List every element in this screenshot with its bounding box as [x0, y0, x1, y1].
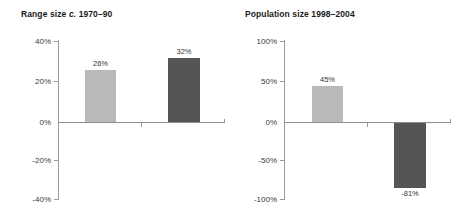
- y-tick-mark-100: [280, 41, 284, 42]
- bar-label-range-size-series-1: 26%: [80, 59, 121, 68]
- bar-range-size-series-2: [168, 58, 200, 122]
- y-tick-label-20: 20%: [0, 77, 51, 86]
- bar-population-size-series-2: [394, 123, 426, 188]
- y-tick-label-neg100: -100%: [228, 195, 277, 204]
- y-axis-line: [58, 40, 59, 200]
- chart-panel-range-size: Range size c. 1970–90 40% 20% 0% -20% -4…: [0, 0, 232, 219]
- y-tick-label-0: 0%: [0, 118, 51, 127]
- bar-population-size-series-1: [312, 86, 343, 122]
- y-tick-mark-50: [280, 81, 284, 82]
- bar-range-size-series-1: [85, 70, 116, 122]
- y-tick-mark-20: [54, 81, 58, 82]
- plot-area-range-size: 40% 20% 0% -20% -40% 26% 32%: [0, 0, 232, 219]
- y-tick-label-neg50: -50%: [228, 156, 277, 165]
- y-tick-mark-40: [54, 41, 58, 42]
- chart-panel-population-size: Population size 1998–2004 100% 50% 0% -5…: [228, 0, 460, 219]
- bar-label-population-size-series-2: -81%: [389, 189, 431, 198]
- plot-area-population-size: 100% 50% 0% -50% -100% 45% -81%: [228, 0, 460, 219]
- bar-label-range-size-series-2: 32%: [163, 47, 205, 56]
- y-tick-label-40: 40%: [0, 37, 51, 46]
- y-tick-mark-neg50: [280, 160, 284, 161]
- x-axis-center-tick: [141, 122, 142, 127]
- y-tick-label-neg40: -40%: [0, 195, 51, 204]
- bar-label-population-size-series-1: 45%: [307, 75, 348, 84]
- y-tick-label-0: 0%: [228, 118, 277, 127]
- x-axis-center-tick: [367, 122, 368, 127]
- y-tick-label-100: 100%: [228, 37, 277, 46]
- x-axis-end-tick: [224, 119, 225, 123]
- y-tick-label-50: 50%: [228, 77, 277, 86]
- y-axis-line: [284, 40, 285, 200]
- y-tick-mark-neg40: [54, 199, 58, 200]
- y-tick-mark-neg100: [280, 199, 284, 200]
- y-tick-label-neg20: -20%: [0, 156, 51, 165]
- x-axis-end-tick: [450, 119, 451, 123]
- y-tick-mark-neg20: [54, 160, 58, 161]
